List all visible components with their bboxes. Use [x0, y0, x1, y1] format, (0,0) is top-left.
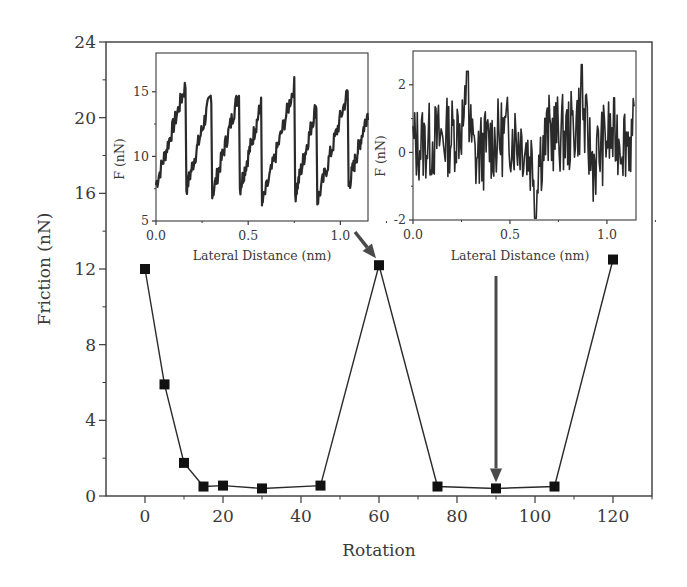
inset-right-y-axis-label: F (nN)	[373, 135, 388, 176]
inset-plot-right: -2020.00.51.0	[394, 51, 656, 242]
data-marker-square	[550, 482, 560, 492]
x-tick-label: 20	[212, 506, 234, 526]
y-tick-label: 8	[85, 335, 96, 355]
x-tick-label: 0	[140, 506, 151, 526]
inset-plot-left: 510150.00.51.0	[133, 53, 386, 243]
y-tick-label: 0	[398, 145, 406, 160]
data-marker-square	[608, 255, 618, 265]
data-marker-square	[257, 483, 267, 493]
y-tick-label: 4	[85, 410, 96, 430]
x-tick-label: 0.5	[238, 228, 258, 243]
y-tick-label: 2	[398, 77, 406, 92]
main-y-axis-label: Friction (nN)	[34, 213, 54, 326]
y-tick-label: 15	[133, 84, 149, 99]
x-tick-label: 80	[446, 506, 468, 526]
inset-left-y-axis-label: F (nN)	[112, 138, 127, 179]
data-marker-square	[218, 481, 228, 491]
y-tick-label: -2	[394, 212, 406, 227]
inset-right-x-axis-label: Lateral Distance (nm)	[451, 248, 590, 263]
data-marker-square	[140, 264, 150, 274]
data-marker-square	[160, 379, 170, 389]
x-tick-label: 120	[597, 506, 629, 526]
x-tick-label: 0.5	[500, 227, 520, 242]
x-tick-label: 0.0	[403, 227, 423, 242]
y-tick-label: 0	[85, 486, 96, 506]
y-tick-label: 5	[141, 213, 149, 228]
data-marker-square	[316, 481, 326, 491]
y-tick-label: 10	[133, 149, 149, 164]
data-marker-square	[179, 458, 189, 468]
data-marker-square	[491, 483, 501, 493]
data-marker-square	[433, 482, 443, 492]
y-tick-label: 20	[74, 108, 96, 128]
x-tick-label: 1.0	[597, 227, 617, 242]
data-marker-square	[199, 482, 209, 492]
y-tick-label: 12	[74, 259, 96, 279]
friction-rotation-figure: 04812162024020406080100120 510150.00.51.…	[0, 0, 687, 587]
main-x-axis-label: Rotation	[342, 540, 416, 560]
inset-left-x-axis-label: Lateral Distance (nm)	[193, 248, 332, 263]
data-marker-square	[374, 260, 384, 270]
arrow-to-60deg-shaft	[355, 232, 367, 247]
x-tick-label: 0.0	[146, 228, 166, 243]
data-line	[145, 260, 613, 489]
x-tick-label: 40	[290, 506, 312, 526]
x-tick-label: 1.0	[330, 228, 350, 243]
x-tick-label: 60	[368, 506, 390, 526]
arrow-to-90deg-head	[490, 468, 502, 482]
y-tick-label: 24	[74, 32, 96, 52]
x-tick-label: 100	[519, 506, 551, 526]
y-tick-label: 16	[74, 183, 96, 203]
